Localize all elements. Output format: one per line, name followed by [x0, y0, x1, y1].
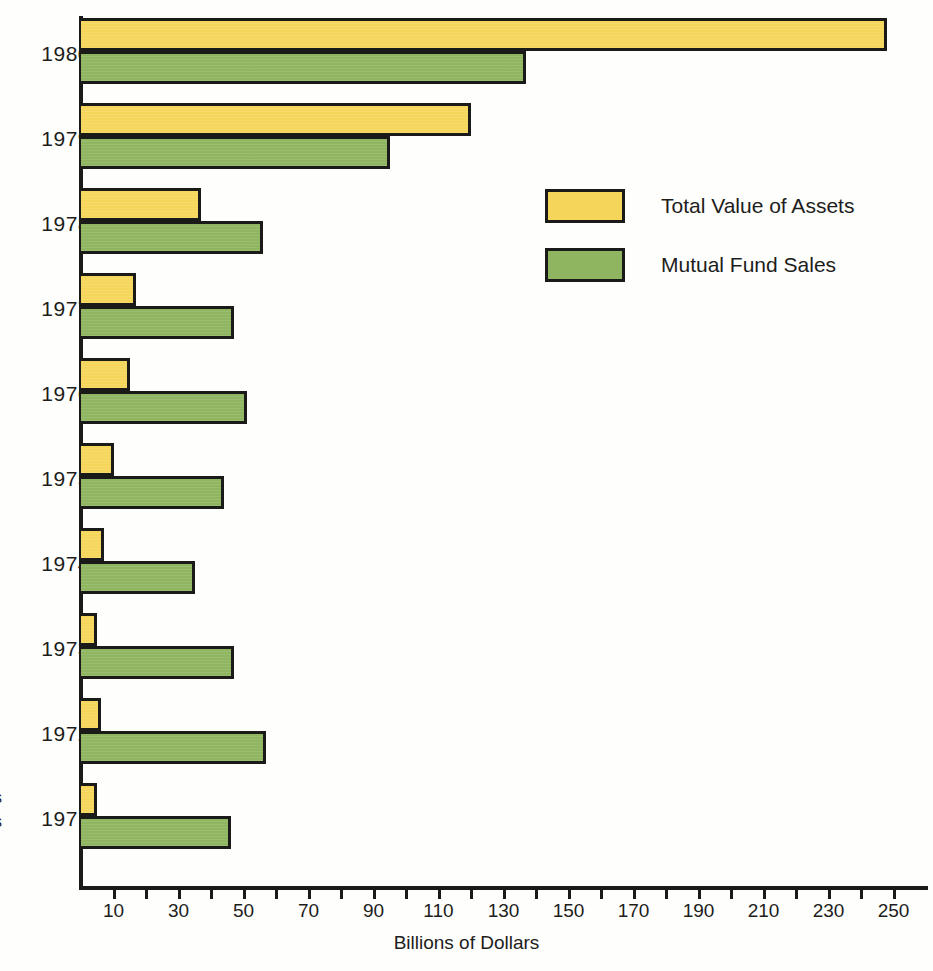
x-axis-tick-label: 130 — [474, 900, 534, 922]
bar-mutual-fund-sales[interactable] — [81, 476, 224, 509]
x-axis-tick — [568, 888, 571, 899]
year-group: 1975 — [0, 443, 933, 528]
x-axis-tick — [535, 888, 538, 899]
side-caption-line: s — [0, 810, 12, 834]
x-axis-tick — [145, 888, 148, 899]
chart-root: 1980197919781977197619751974197319721971… — [0, 0, 933, 971]
x-axis-tick — [373, 888, 376, 899]
x-axis-tick — [210, 888, 213, 899]
bar-total-value-of-assets[interactable] — [81, 273, 136, 306]
x-axis-tick-label: 230 — [799, 900, 859, 922]
x-axis-tick — [828, 888, 831, 899]
bar-mutual-fund-sales[interactable] — [81, 221, 263, 254]
x-axis-tick-label: 150 — [539, 900, 599, 922]
x-axis-tick — [438, 888, 441, 899]
x-axis-title: Billions of Dollars — [0, 932, 933, 954]
x-axis-tick — [470, 888, 473, 899]
legend: Total Value of AssetsMutual Fund Sales — [545, 189, 854, 307]
x-axis-tick-label: 30 — [149, 900, 209, 922]
plot-area: 1980197919781977197619751974197319721971… — [0, 0, 933, 971]
side-caption: ssl — [0, 786, 12, 858]
side-caption-line: l — [0, 834, 12, 858]
x-axis-tick — [113, 888, 116, 899]
x-axis-tick — [600, 888, 603, 899]
year-axis-label: 1976 — [0, 382, 90, 406]
year-axis-label: 1979 — [0, 127, 90, 151]
x-axis-tick — [243, 888, 246, 899]
year-axis-label: 1971 — [0, 807, 90, 831]
x-axis-tick — [730, 888, 733, 899]
bar-mutual-fund-sales[interactable] — [81, 51, 526, 84]
bar-mutual-fund-sales[interactable] — [81, 646, 234, 679]
bar-total-value-of-assets[interactable] — [81, 698, 101, 731]
bar-total-value-of-assets[interactable] — [81, 443, 114, 476]
bar-total-value-of-assets[interactable] — [81, 103, 471, 136]
x-axis-tick — [275, 888, 278, 899]
x-axis-tick — [178, 888, 181, 899]
bar-mutual-fund-sales[interactable] — [81, 731, 266, 764]
year-axis-label: 1980 — [0, 42, 90, 66]
year-group: 1974 — [0, 528, 933, 613]
bar-mutual-fund-sales[interactable] — [81, 136, 390, 169]
x-axis-tick-label: 90 — [344, 900, 404, 922]
x-axis-tick — [698, 888, 701, 899]
x-axis-tick — [633, 888, 636, 899]
year-group: 1972 — [0, 698, 933, 783]
x-axis-tick — [893, 888, 896, 899]
legend-label: Mutual Fund Sales — [661, 253, 836, 277]
legend-swatch-sales — [545, 248, 625, 282]
x-axis-tick-label: 110 — [409, 900, 469, 922]
bar-mutual-fund-sales[interactable] — [81, 391, 247, 424]
year-group: 1973 — [0, 613, 933, 698]
x-axis-tick — [860, 888, 863, 899]
side-caption-line: s — [0, 786, 12, 810]
x-axis-tick — [503, 888, 506, 899]
bar-total-value-of-assets[interactable] — [81, 528, 104, 561]
year-group: 1971 — [0, 783, 933, 868]
x-axis-tick-label: 170 — [604, 900, 664, 922]
year-group: 1976 — [0, 358, 933, 443]
x-axis-tick — [405, 888, 408, 899]
x-axis-tick — [763, 888, 766, 899]
x-axis-tick — [340, 888, 343, 899]
legend-label: Total Value of Assets — [661, 194, 854, 218]
legend-item[interactable]: Mutual Fund Sales — [545, 248, 854, 282]
year-axis-label: 1978 — [0, 212, 90, 236]
year-axis-label: 1972 — [0, 722, 90, 746]
year-group: 1980 — [0, 18, 933, 103]
year-group: 1979 — [0, 103, 933, 188]
bar-total-value-of-assets[interactable] — [81, 613, 97, 646]
bar-mutual-fund-sales[interactable] — [81, 561, 195, 594]
x-axis-tick — [665, 888, 668, 899]
legend-swatch-assets — [545, 189, 625, 223]
bar-mutual-fund-sales[interactable] — [81, 816, 231, 849]
year-axis-label: 1975 — [0, 467, 90, 491]
x-axis-tick-label: 50 — [214, 900, 274, 922]
bar-mutual-fund-sales[interactable] — [81, 306, 234, 339]
year-axis-label: 1977 — [0, 297, 90, 321]
year-axis-label: 1974 — [0, 552, 90, 576]
x-axis-tick-label: 210 — [734, 900, 794, 922]
legend-item[interactable]: Total Value of Assets — [545, 189, 854, 223]
bar-total-value-of-assets[interactable] — [81, 358, 130, 391]
bar-total-value-of-assets[interactable] — [81, 188, 201, 221]
year-axis-label: 1973 — [0, 637, 90, 661]
x-axis-tick-label: 190 — [669, 900, 729, 922]
bar-total-value-of-assets[interactable] — [81, 18, 887, 51]
x-axis-tick — [795, 888, 798, 899]
bar-total-value-of-assets[interactable] — [81, 783, 97, 816]
x-axis-tick-label: 70 — [279, 900, 339, 922]
x-axis-tick-label: 250 — [864, 900, 924, 922]
x-axis-tick-label: 10 — [84, 900, 144, 922]
x-axis-tick — [308, 888, 311, 899]
